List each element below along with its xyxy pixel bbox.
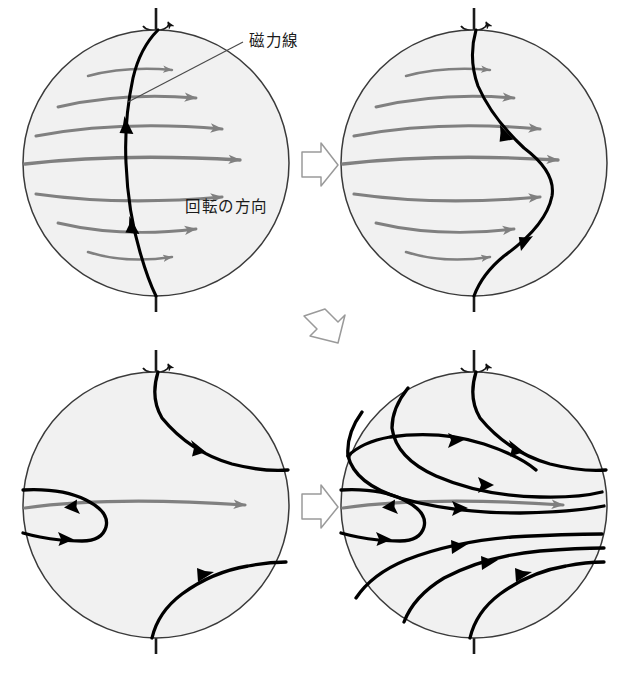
- panel-3: [23, 350, 289, 654]
- panel-4: [341, 350, 607, 654]
- block-arrow-down-left-icon: [304, 309, 345, 343]
- rotation-direction-label: 回転の方向: [185, 198, 268, 216]
- connector-2: [304, 309, 345, 343]
- connector-3: [302, 485, 338, 528]
- field-line-label: 磁力線: [249, 32, 299, 50]
- block-arrow-right-icon: [302, 143, 338, 186]
- figure-root: 磁力線 回転の方向: [0, 0, 636, 679]
- connector-1: [302, 143, 338, 186]
- panel-2: [341, 8, 607, 312]
- block-arrow-right-icon: [302, 485, 338, 528]
- panel-1: 磁力線 回転の方向: [23, 8, 299, 312]
